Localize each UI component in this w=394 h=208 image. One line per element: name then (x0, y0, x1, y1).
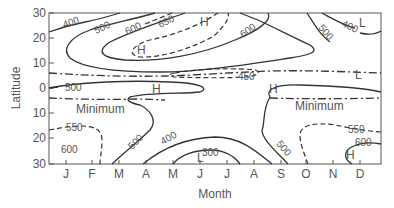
high-marker: H (269, 82, 278, 96)
contour-label: 400 (61, 14, 81, 30)
high-marker: H (200, 15, 209, 29)
contour-label: 400 (159, 129, 179, 147)
contour-label: 550 (66, 122, 83, 133)
x-axis (66, 160, 360, 164)
y-tick-label: 20 (33, 31, 47, 45)
low-marker: L (197, 151, 204, 165)
x-tick-label: D (356, 167, 365, 181)
x-tick-label: N (329, 167, 338, 181)
x-tick-label: A (142, 167, 150, 181)
x-tick-label: J (197, 167, 203, 181)
y-tick-label: 10 (33, 106, 47, 120)
minimum-label: Minimum (76, 102, 125, 116)
contour-label: 450 (238, 71, 255, 82)
y-tick-label: 30 (33, 157, 47, 171)
minimum-label: Minimum (295, 99, 344, 113)
high-marker: H (346, 148, 355, 162)
contour-label: 600 (238, 21, 258, 40)
x-tick-label: S (277, 167, 285, 181)
high-marker: H (137, 43, 146, 57)
contour-chart: 30 20 10 0 10 20 30 Latitude J F M A M J… (0, 0, 394, 208)
x-tick-label: O (301, 167, 310, 181)
low-marker: L (359, 16, 366, 30)
contour-label: 550 (348, 124, 365, 135)
contour-label: 500 (316, 22, 335, 42)
y-axis-title: Latitude (9, 66, 23, 109)
contour-label: 500 (65, 82, 82, 93)
x-tick-label: F (88, 167, 95, 181)
contour-label: 500 (92, 19, 112, 36)
x-tick-label: A (250, 167, 258, 181)
contour-label: 500 (274, 138, 293, 158)
x-tick-label: M (114, 167, 124, 181)
low-marker: L (355, 68, 362, 82)
contour-label: 650 (156, 13, 176, 30)
y-tick-label: 10 (33, 56, 47, 70)
trough-lines (49, 71, 381, 100)
contour-label: 300 (202, 147, 219, 158)
x-axis-title: Month (198, 187, 231, 201)
contour-label: 600 (355, 137, 372, 148)
y-tick-label: 20 (33, 131, 47, 145)
y-tick-label: 30 (33, 6, 47, 20)
y-tick-labels: 30 20 10 0 10 20 30 (33, 6, 47, 171)
x-tick-label: J (224, 167, 230, 181)
y-tick-label: 0 (39, 81, 46, 95)
x-tick-labels: J F M A M J J A S O N D (63, 167, 365, 181)
x-tick-label: M (168, 167, 178, 181)
contour-label: 400 (340, 18, 360, 35)
contour-label: 600 (61, 144, 78, 155)
region-annotations: Minimum Minimum (76, 99, 344, 116)
x-tick-label: J (63, 167, 69, 181)
high-marker: H (152, 82, 161, 96)
contour-label: 600 (123, 20, 143, 37)
